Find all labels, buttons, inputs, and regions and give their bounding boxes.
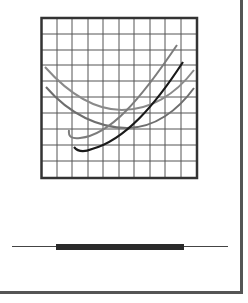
- grid-lines: [41, 18, 197, 178]
- rising-black-curve: [74, 62, 183, 151]
- rising-gray-curve: [69, 45, 177, 138]
- progress-bar: [56, 244, 184, 250]
- chart-graphic: [0, 0, 248, 303]
